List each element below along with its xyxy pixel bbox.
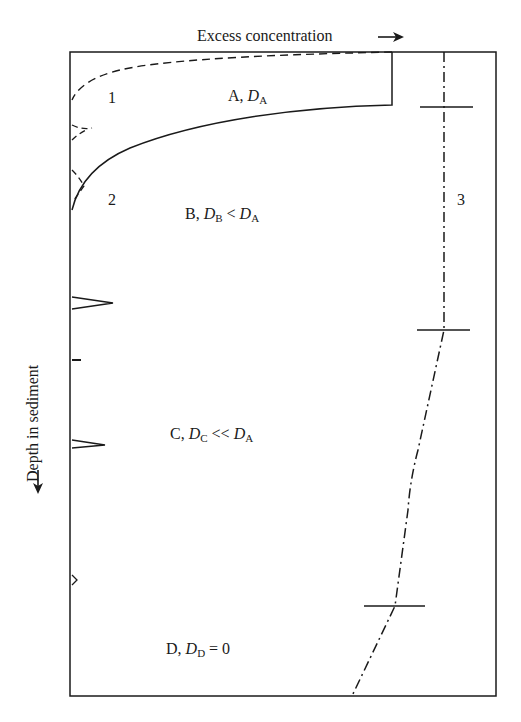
zone-a-label: A, DA xyxy=(228,88,267,106)
spike-3 xyxy=(72,440,105,448)
zone-c-sub: C xyxy=(200,432,207,444)
curve-label-1: 1 xyxy=(108,90,116,106)
zone-d-letter: D xyxy=(166,640,178,657)
curve-3-dashdot xyxy=(352,52,444,696)
zone-a-letter: A xyxy=(228,87,240,104)
spike-4 xyxy=(72,575,77,585)
zone-c-ref-sym: D xyxy=(234,425,246,442)
zone-a-sym: D xyxy=(248,87,260,104)
zone-d-sub: D xyxy=(197,647,205,659)
zone-c-rel: << xyxy=(208,425,234,442)
curve-label-3: 3 xyxy=(457,192,465,208)
zone-d-sym: D xyxy=(186,640,198,657)
x-arrow-icon xyxy=(378,32,404,42)
y-axis-label: Depth in sediment xyxy=(24,242,46,482)
zone-b-ref-sub: A xyxy=(251,212,259,224)
zone-d-rel: = 0 xyxy=(205,640,230,657)
zone-c-label: C, DC << DA xyxy=(170,426,253,444)
zone-a-sub: A xyxy=(259,94,267,106)
zone-b-rel: < xyxy=(223,205,240,222)
y-axis-label-text: Depth in sediment xyxy=(24,365,41,482)
curve-1-dashed-bump xyxy=(72,125,92,140)
zone-b-letter: B xyxy=(185,205,196,222)
curve-2-solid xyxy=(72,52,392,210)
x-axis-label: Excess concentration xyxy=(197,28,333,44)
zone-c-sym: D xyxy=(189,425,201,442)
zone-d-label: D, DD = 0 xyxy=(166,641,230,659)
spike-1 xyxy=(72,297,113,309)
diagram-canvas xyxy=(0,0,521,722)
zone-c-ref-sub: A xyxy=(245,432,253,444)
plot-frame xyxy=(70,52,496,696)
zone-b-sub: B xyxy=(215,212,222,224)
zone-c-letter: C xyxy=(170,425,181,442)
zone-b-ref-sym: D xyxy=(240,205,252,222)
zone-b-sym: D xyxy=(204,205,216,222)
zone-b-label: B, DB < DA xyxy=(185,206,259,224)
curve-label-2: 2 xyxy=(108,192,116,208)
